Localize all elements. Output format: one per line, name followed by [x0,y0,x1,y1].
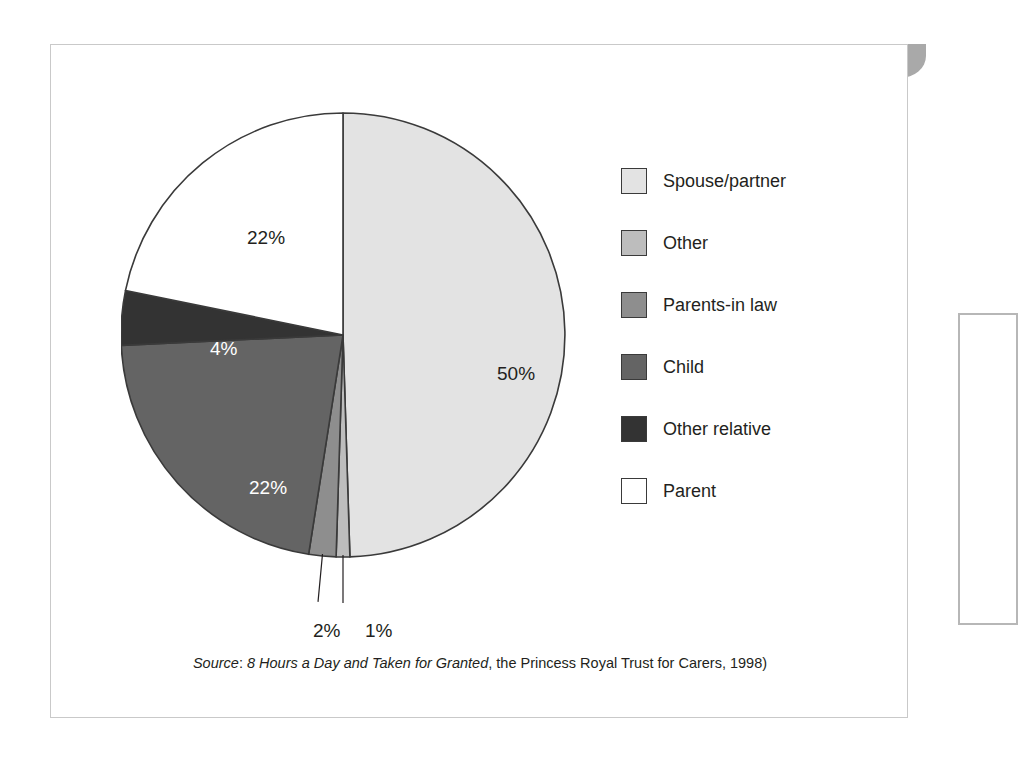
legend-swatch-icon [621,292,647,318]
legend-item-label: Other relative [663,419,771,440]
legend-swatch-icon [621,168,647,194]
legend-item-label: Other [663,233,708,254]
figure-frame: 50% 22% 22% 4% 2% 1% Spouse/partnerOther… [50,44,908,718]
legend-item[interactable]: Spouse/partner [621,163,871,199]
legend-swatch-icon [621,478,647,504]
source-publisher: , the Princess Royal Trust for Carers, 1… [488,655,767,671]
pie-slice[interactable] [343,113,565,557]
legend-item[interactable]: Parents-in law [621,287,871,323]
source-separator: : [239,655,247,671]
slice-label-child: 22% [249,477,287,499]
slice-label-other-relative: 4% [210,338,237,360]
legend-item-label: Parents-in law [663,295,777,316]
legend-swatch-icon [621,354,647,380]
legend-item[interactable]: Child [621,349,871,385]
pie-chart-svg [121,95,591,625]
pie-chart-area: 50% 22% 22% 4% 2% 1% Spouse/partnerOther… [51,45,909,719]
slice-label-parent: 22% [247,227,285,249]
pie-leader-line [318,554,322,602]
slice-label-spouse-partner: 50% [497,363,535,385]
pie-slices-group [121,113,565,557]
chart-legend: Spouse/partnerOtherParents-in lawChildOt… [621,163,871,509]
legend-item-label: Spouse/partner [663,171,786,192]
legend-item-label: Child [663,357,704,378]
slice-label-other: 1% [365,620,392,642]
slice-label-parents-in-law: 2% [313,620,340,642]
legend-item[interactable]: Other [621,225,871,261]
pie-slice[interactable] [121,335,343,554]
legend-item-label: Parent [663,481,716,502]
legend-swatch-icon [621,230,647,256]
legend-swatch-icon [621,416,647,442]
source-publication-title: 8 Hours a Day and Taken for Granted [247,655,488,671]
legend-item[interactable]: Other relative [621,411,871,447]
source-note: Source: 8 Hours a Day and Taken for Gran… [51,655,909,671]
pie-leader-lines-group [318,554,343,603]
legend-item[interactable]: Parent [621,473,871,509]
source-label: Source [193,655,239,671]
side-panel-fragment [958,313,1018,625]
